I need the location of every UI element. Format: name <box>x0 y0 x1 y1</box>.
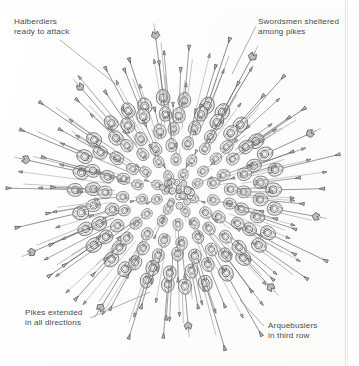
annotation-pikes: Pikes extended in all directions <box>25 308 82 329</box>
leader-line-arquebusiers <box>240 300 264 326</box>
annotation-swordsmen: Swordsmen sheltered among pikes <box>258 17 339 38</box>
figure-layer <box>6 23 342 352</box>
page-gutter <box>348 0 359 366</box>
annotation-halberdiers: Halberdiers ready to attack <box>14 17 69 38</box>
page-edge-line <box>345 0 346 366</box>
leader-line-halberdiers <box>60 40 118 86</box>
illustration-page: Halberdiers ready to attack Swordsmen sh… <box>0 0 359 366</box>
annotation-arquebusiers: Arquebusiers in third row <box>268 321 318 342</box>
